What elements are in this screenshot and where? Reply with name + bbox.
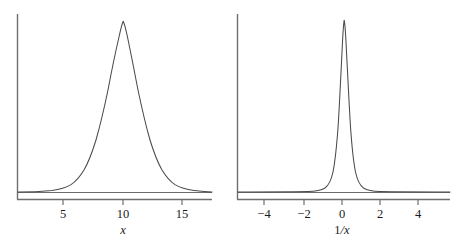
x-axis-title-text: x: [120, 223, 126, 237]
reciprocal-axis-title-denominator: /x: [341, 223, 350, 237]
x-distribution-plot: [0, 0, 230, 242]
x-tick-label-minus2: −2: [284, 208, 324, 221]
x-tick-label-5: 5: [43, 208, 83, 221]
reciprocal-distribution-plot: [230, 0, 460, 242]
x-tick-label-2: 2: [360, 208, 400, 221]
figure-root: 5 10 15 x −4 −2 0 2 4 1/x: [0, 0, 460, 242]
x-tick-label-minus4: −4: [244, 208, 284, 221]
density-curve-x: [18, 21, 212, 192]
density-curve-reciprocal: [238, 20, 450, 192]
x-tick-label-4: 4: [398, 208, 438, 221]
reciprocal-distribution-panel: −4 −2 0 2 4 1/x: [230, 0, 460, 242]
x-tick-label-15: 15: [162, 208, 202, 221]
reciprocal-axis-title: 1/x: [322, 224, 362, 237]
x-tick-label-10: 10: [103, 208, 143, 221]
x-distribution-panel: 5 10 15 x: [0, 0, 230, 242]
x-tick-label-0: 0: [322, 208, 362, 221]
x-axis-title: x: [103, 224, 143, 237]
